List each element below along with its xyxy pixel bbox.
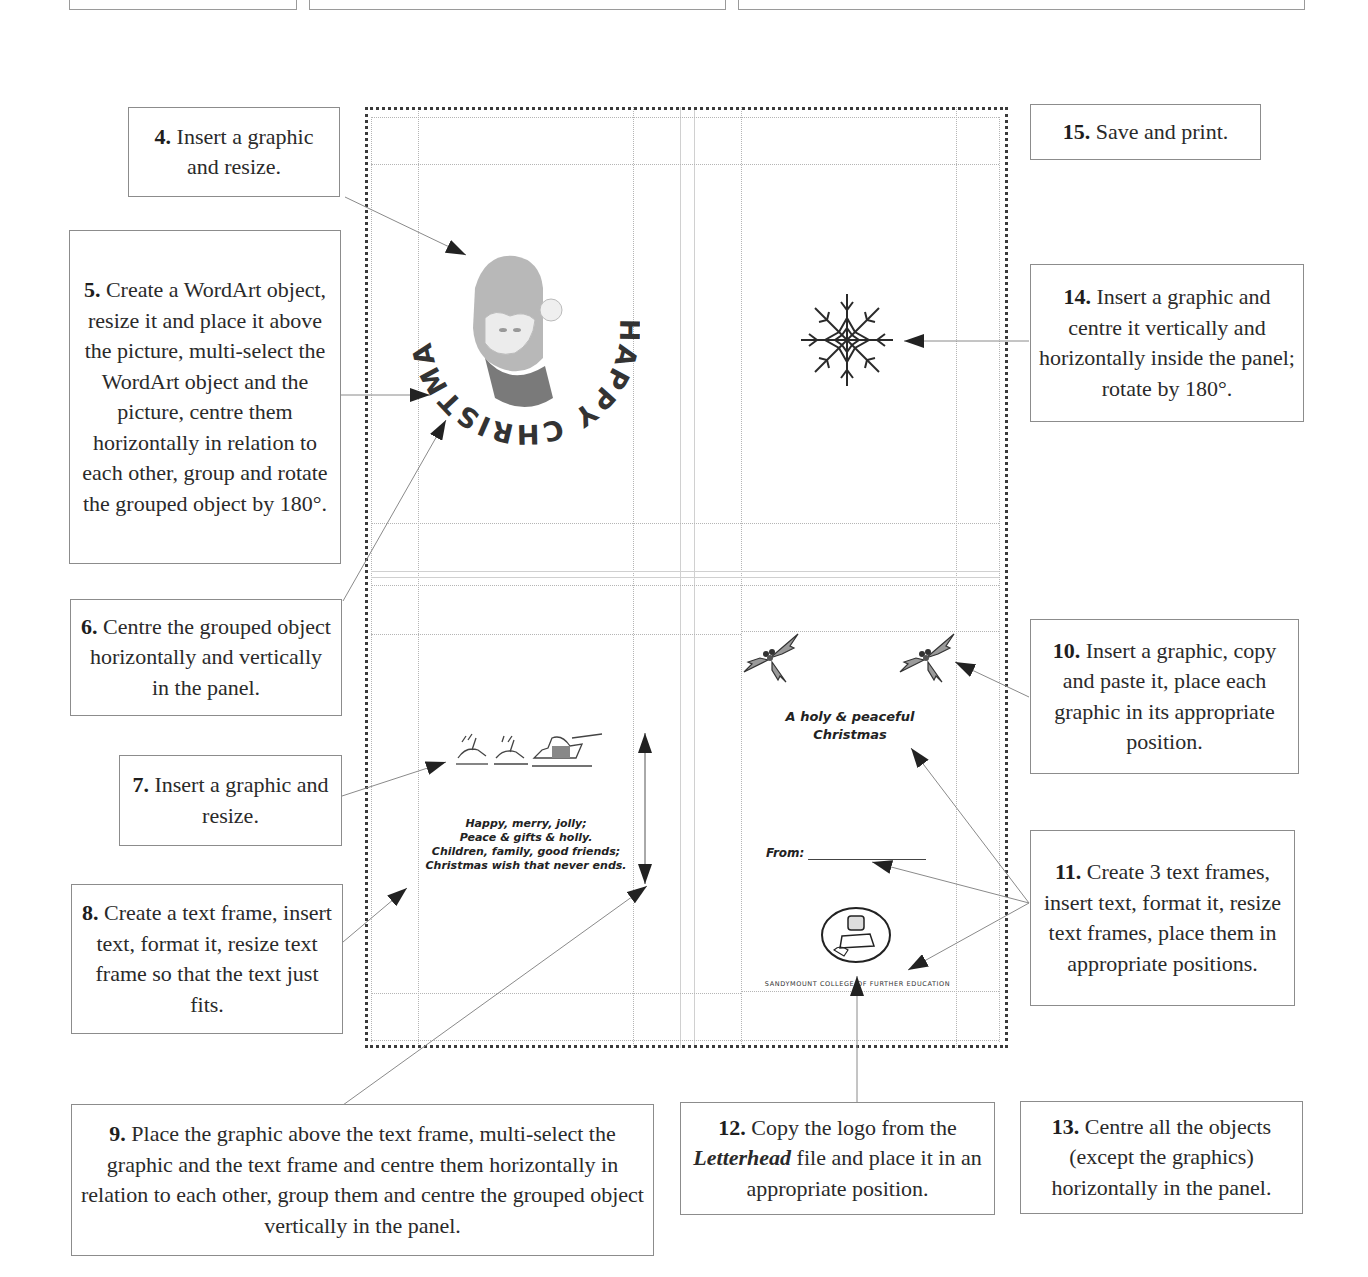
from-signature-line [808,859,926,860]
step-number: 7. [132,772,149,797]
step-8-box: 8. Create a text frame, insert text, for… [71,884,343,1034]
step-number: 12. [718,1115,746,1140]
step-9-box: 9. Place the graphic above the text fram… [71,1104,654,1256]
step-12-box: 12. Copy the logo from the Letterhead fi… [680,1102,995,1215]
from-label[interactable]: From: [766,846,804,860]
step-15-box: 15. Save and print. [1030,104,1261,160]
step-number: 8. [82,900,99,925]
step-13-box: 13. Centre all the objects (except the g… [1020,1101,1303,1214]
step-number: 9. [109,1121,126,1146]
poem-line: Happy, merry, jolly; [420,817,632,831]
step-6-box: 6. Centre the grouped object horizontall… [70,599,342,716]
step-text: Centre the grouped object horizontally a… [90,614,331,700]
step-text: Centre all the objects (except the graph… [1052,1114,1272,1200]
step-text: Save and print. [1090,119,1228,144]
sleigh-reindeer-graphic[interactable] [452,728,607,773]
greeting-text-frame[interactable]: A holy & peaceful Christmas [760,708,940,744]
partial-box-top-right [738,0,1305,10]
greeting-line: Christmas [760,726,940,744]
step-text: Place the graphic above the text frame, … [81,1121,644,1238]
step-number: 6. [81,614,98,639]
poem-line: Christmas wish that never ends. [420,859,632,873]
step-emphasis: Letterhead [693,1145,791,1170]
holly-graphic-left[interactable] [742,632,802,684]
poem-line: Peace & gifts & holly. [420,831,632,845]
step-number: 10. [1053,638,1081,663]
step-7-box: 7. Insert a graphic and resize. [119,755,342,846]
step-text: Insert a graphic and resize. [171,124,313,180]
step-14-box: 14. Insert a graphic and centre it verti… [1030,264,1304,422]
step-text: Create a text frame, insert text, format… [96,900,332,1017]
step-4-box: 4. Insert a graphic and resize. [128,107,340,197]
step-10-box: 10. Insert a graphic, copy and paste it,… [1030,619,1299,774]
step-number: 13. [1052,1114,1080,1139]
step-number: 5. [84,277,101,302]
college-name-text: SANDYMOUNT COLLEGE OF FURTHER EDUCATION [740,980,975,988]
step-number: 14. [1063,284,1091,309]
holly-graphic-right[interactable] [898,632,958,684]
step-text: Copy the logo from the [746,1115,957,1140]
college-logo[interactable] [820,906,892,964]
poem-text-frame[interactable]: Happy, merry, jolly; Peace & gifts & hol… [420,817,632,873]
step-text: Create a WordArt object, resize it and p… [82,277,327,516]
greeting-line: A holy & peaceful [760,708,940,726]
step-number: 11. [1055,859,1081,884]
step-5-box: 5. Create a WordArt object, resize it an… [69,230,341,564]
poem-line: Children, family, good friends; [420,845,632,859]
partial-box-top-middle [309,0,726,10]
step-11-box: 11. Create 3 text frames, insert text, f… [1030,830,1295,1006]
step-number: 4. [155,124,172,149]
svg-text:HAPPY CHRISTMAS: HAPPY CHRISTMAS [410,319,640,450]
step-text: Insert a graphic and resize. [149,772,329,828]
partial-box-top-left [69,0,297,10]
step-text: Insert a graphic, copy and paste it, pla… [1054,638,1276,755]
step-number: 15. [1063,119,1091,144]
snowflake-graphic[interactable] [797,288,897,392]
wordart-happy-christmas[interactable]: HAPPY CHRISTMAS [410,240,640,450]
